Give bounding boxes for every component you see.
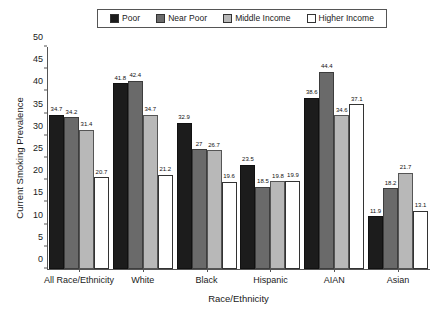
- bar-rect: [192, 149, 207, 269]
- bar-rect: [349, 104, 364, 269]
- x-axis-category-label: Black: [196, 275, 218, 285]
- bar-higher: 13.1: [413, 47, 428, 269]
- bar-rect: [177, 123, 192, 269]
- bar-rect: [383, 188, 398, 269]
- x-axis-title: Race/Ethnicity: [47, 293, 430, 304]
- y-axis-tick-label: 20: [33, 165, 43, 175]
- bar-rect: [368, 216, 383, 269]
- bar-rect: [304, 98, 319, 269]
- legend-item-poor: Poor: [110, 14, 140, 23]
- bar-group: 32.92726.719.6Black: [175, 47, 239, 269]
- bar-value-label: 18.5: [257, 178, 269, 185]
- x-axis-category-label: Hispanic: [253, 275, 288, 285]
- bar-poor: 34.7: [49, 47, 64, 269]
- bar-rect: [270, 181, 285, 269]
- x-axis-tick-mark: [79, 269, 80, 272]
- bar-value-label: 26.7: [208, 142, 220, 149]
- y-axis-tick-label: 30: [33, 121, 43, 131]
- bar-value-label: 34.6: [336, 107, 348, 114]
- bar-near: 18.5: [255, 47, 270, 269]
- bar-value-label: 44.4: [321, 63, 333, 70]
- x-axis-tick-mark: [334, 269, 335, 272]
- bar-rect: [64, 117, 79, 269]
- bar-middle: 19.8: [270, 47, 285, 269]
- x-axis-category-label: White: [131, 275, 154, 285]
- legend-swatch-icon: [307, 14, 316, 23]
- bar-higher: 19.6: [222, 47, 237, 269]
- bar-rect: [285, 181, 300, 269]
- plot-area: Current Smoking Prevalence 0510152025303…: [47, 47, 430, 269]
- bar-near: 27: [192, 47, 207, 269]
- bar-middle: 26.7: [207, 47, 222, 269]
- legend-label: Near Poor: [168, 14, 207, 23]
- bar-poor: 41.8: [113, 47, 128, 269]
- bar-value-label: 21.2: [159, 166, 171, 173]
- legend-item-higher: Higher Income: [307, 14, 374, 23]
- bar-value-label: 20.7: [96, 169, 108, 176]
- bar-middle: 34.7: [143, 47, 158, 269]
- bar-poor: 23.5: [240, 47, 255, 269]
- bar-near: 18.2: [383, 47, 398, 269]
- x-axis-tick-mark: [207, 269, 208, 272]
- bar-rect: [158, 175, 173, 269]
- y-axis-tick-label: 25: [33, 143, 43, 153]
- bar-value-label: 34.2: [66, 109, 78, 116]
- bar-higher: 19.9: [285, 47, 300, 269]
- x-axis-tick-mark: [398, 269, 399, 272]
- bar-value-label: 37.1: [351, 96, 363, 103]
- x-axis-category-label: Asian: [387, 275, 410, 285]
- x-axis-tick-mark: [270, 269, 271, 272]
- bar-value-label: 23.5: [242, 156, 254, 163]
- bar-middle: 31.4: [79, 47, 94, 269]
- bar-rect: [143, 115, 158, 269]
- bar-group: 23.518.519.819.9Hispanic: [239, 47, 303, 269]
- smoking-prevalence-bar-chart: PoorNear PoorMiddle IncomeHigher Income …: [0, 0, 446, 311]
- bar-rect: [255, 187, 270, 269]
- bar-group: 11.918.221.713.1Asian: [366, 47, 430, 269]
- bar-rect: [94, 177, 109, 269]
- bar-value-label: 38.6: [306, 89, 318, 96]
- bar-value-label: 42.4: [129, 72, 141, 79]
- x-axis-tick-mark: [143, 269, 144, 272]
- bar-value-label: 34.7: [51, 106, 63, 113]
- y-axis-tick-label: 10: [33, 210, 43, 220]
- chart-legend: PoorNear PoorMiddle IncomeHigher Income: [97, 9, 387, 28]
- bar-near: 34.2: [64, 47, 79, 269]
- bar-middle: 21.7: [398, 47, 413, 269]
- bar-value-label: 19.8: [272, 173, 284, 180]
- bar-value-label: 34.7: [144, 106, 156, 113]
- bar-rect: [240, 165, 255, 269]
- bar-value-label: 11.9: [370, 208, 381, 215]
- bar-value-label: 19.9: [287, 172, 299, 179]
- bar-value-label: 27: [196, 141, 203, 148]
- bar-rect: [49, 115, 64, 269]
- legend-item-near: Near Poor: [156, 14, 207, 23]
- bar-value-label: 31.4: [81, 121, 93, 128]
- bar-rect: [222, 182, 237, 269]
- legend-swatch-icon: [110, 14, 119, 23]
- x-axis-category-label: All Race/Ethnicity: [44, 275, 114, 285]
- bar-rect: [413, 211, 428, 269]
- bar-group: 34.734.231.420.7All Race/Ethnicity: [47, 47, 111, 269]
- bar-poor: 38.6: [304, 47, 319, 269]
- legend-label: Higher Income: [319, 14, 374, 23]
- bar-value-label: 41.8: [114, 75, 126, 82]
- bar-rect: [207, 150, 222, 269]
- bar-middle: 34.6: [334, 47, 349, 269]
- y-axis-tick-label: 0: [38, 254, 43, 264]
- bar-value-label: 32.9: [178, 114, 190, 121]
- y-axis-tick-label: 35: [33, 99, 43, 109]
- x-axis-line: [47, 269, 430, 270]
- bar-rect: [319, 72, 334, 269]
- bar-group: 38.644.434.637.1AIAN: [302, 47, 366, 269]
- y-axis-tick-label: 50: [33, 32, 43, 42]
- legend-label: Poor: [122, 14, 140, 23]
- bar-higher: 20.7: [94, 47, 109, 269]
- legend-label: Middle Income: [235, 14, 290, 23]
- legend-swatch-icon: [156, 14, 165, 23]
- legend-item-middle: Middle Income: [223, 14, 290, 23]
- y-axis-tick-label: 5: [38, 232, 43, 242]
- bar-near: 42.4: [128, 47, 143, 269]
- y-axis-title: Current Smoking Prevalence: [14, 97, 25, 218]
- y-axis-tick-label: 15: [33, 187, 43, 197]
